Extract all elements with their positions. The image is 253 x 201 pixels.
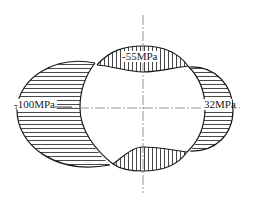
stress-distribution-diagram: -55MPa -100MPa 32MPa	[0, 0, 253, 201]
top-stress-label: -55MPa	[122, 50, 158, 62]
right-stress-label: 32MPa	[204, 98, 236, 110]
bottom-stress-region	[113, 147, 187, 171]
left-stress-label: -100MPa	[14, 98, 55, 110]
left-stress-region	[17, 61, 110, 167]
